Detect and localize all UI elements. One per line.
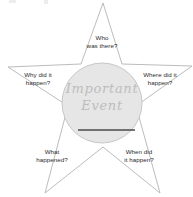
scan-artifact-right <box>44 0 48 4</box>
star-diagram <box>0 0 193 197</box>
scan-artifact-left <box>9 0 16 3</box>
center-circle <box>62 63 142 143</box>
story-star-worksheet: Important Event Who was there? Where did… <box>0 0 193 197</box>
